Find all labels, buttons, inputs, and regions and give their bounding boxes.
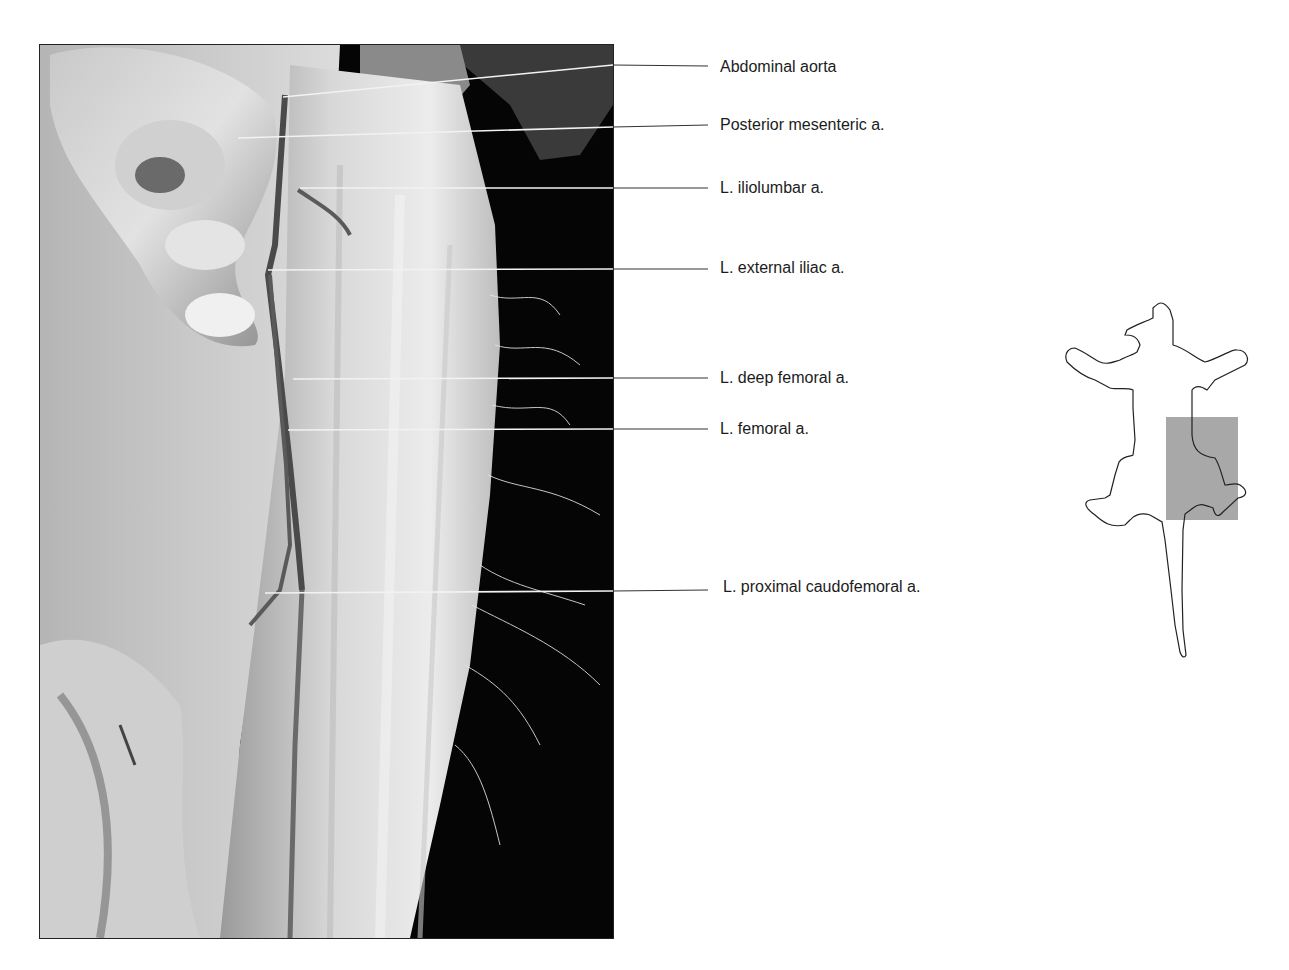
leader-line-outer: [613, 590, 708, 591]
label-left-iliolumbar-artery: L. iliolumbar a.: [720, 179, 824, 197]
photo-illustration: [40, 45, 613, 938]
label-left-external-iliac-artery: L. external iliac a.: [720, 259, 845, 277]
dissection-photo: [40, 45, 613, 938]
leader-line-outer: [613, 65, 708, 66]
leader-line-outer: [613, 125, 708, 127]
label-left-femoral-artery: L. femoral a.: [720, 420, 809, 438]
label-left-proximal-caudofemoral-artery: L. proximal caudofemoral a.: [723, 578, 920, 596]
figure-caption-cutoff: [0, 962, 700, 970]
label-posterior-mesenteric-artery: Posterior mesenteric a.: [720, 116, 885, 134]
label-left-deep-femoral-artery: L. deep femoral a.: [720, 369, 849, 387]
label-abdominal-aorta: Abdominal aorta: [720, 58, 837, 76]
cat-orientation-icon: [1055, 290, 1265, 670]
